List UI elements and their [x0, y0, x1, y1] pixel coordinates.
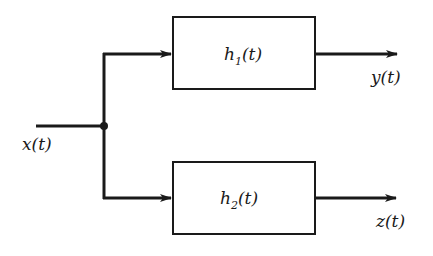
- block-diagram: h1(t) h2(t) x(t) y(t) z(t): [0, 0, 433, 256]
- output-label-z: z(t): [375, 211, 405, 231]
- output-label-y: y(t): [370, 67, 401, 87]
- input-label-x: x(t): [22, 134, 52, 154]
